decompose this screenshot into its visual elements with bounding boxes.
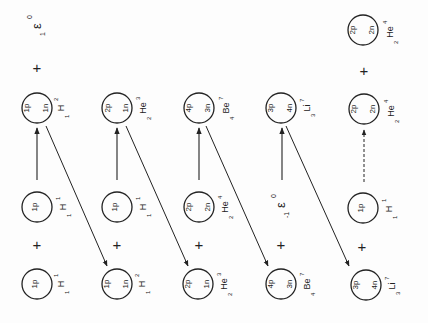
svg-text:2p: 2p — [183, 279, 192, 288]
svg-text:H: H — [384, 206, 394, 213]
svg-text:2p: 2p — [103, 103, 112, 112]
plus-sign: + — [33, 59, 42, 76]
emission-positron-label: ε 0 1 — [26, 15, 46, 36]
svg-text:2: 2 — [53, 97, 59, 101]
nucleus-product-extra: 2p 2n He 4 2 — [348, 15, 399, 45]
svg-text:2p: 2p — [184, 202, 193, 211]
nucleus-product: 2p 2n He 4 2 — [349, 94, 400, 124]
plus-sign: + — [277, 236, 286, 253]
svg-text:2: 2 — [394, 119, 400, 123]
carry-arrow-3-4 — [206, 126, 268, 266]
nucleus-product: 3p 4n Li 7 3 — [266, 93, 316, 123]
svg-text:2: 2 — [146, 116, 152, 120]
svg-text:1p: 1p — [356, 203, 365, 212]
svg-text:1n: 1n — [121, 280, 130, 289]
svg-text:4: 4 — [310, 292, 316, 296]
svg-text:1: 1 — [145, 290, 151, 294]
nucleus-reactant-b: 1p H 1 1 — [348, 193, 398, 223]
carry-arrow-1-2 — [46, 126, 107, 266]
svg-text:Li: Li — [387, 282, 397, 289]
svg-text:4p: 4p — [184, 103, 193, 112]
svg-text:4: 4 — [383, 99, 389, 103]
svg-text:2n: 2n — [203, 203, 212, 212]
carry-arrow-4-5 — [286, 126, 349, 266]
svg-text:H: H — [56, 281, 66, 288]
svg-text:2: 2 — [227, 292, 233, 296]
svg-text:1p: 1p — [22, 103, 31, 112]
svg-text:3: 3 — [395, 291, 401, 295]
column-5: 2p 2n He 4 2 + 2p 2n He 4 2 1p H 1 — [348, 15, 401, 300]
nucleus-reactant-a: 1p 1n H 2 1 — [102, 269, 151, 299]
svg-text:3: 3 — [135, 96, 141, 100]
svg-text:1n: 1n — [121, 104, 130, 113]
svg-text:2: 2 — [393, 40, 399, 44]
svg-text:1: 1 — [53, 273, 59, 277]
svg-text:4: 4 — [229, 116, 235, 120]
svg-text:1: 1 — [55, 196, 61, 200]
svg-text:0: 0 — [270, 194, 277, 198]
nucleus-reactant-b: 2p 2n He 4 2 — [184, 192, 234, 222]
svg-text:2n: 2n — [367, 26, 376, 35]
nucleus-reactant-b: 1p H 1 1 — [22, 192, 72, 222]
svg-text:2: 2 — [228, 215, 234, 219]
svg-text:2n: 2n — [368, 105, 377, 114]
svg-text:1: 1 — [146, 213, 152, 217]
svg-text:H: H — [138, 204, 148, 211]
plus-sign: + — [33, 236, 42, 253]
svg-text:4p: 4p — [266, 279, 275, 288]
svg-text:4n: 4n — [285, 104, 294, 113]
svg-text:3p: 3p — [266, 103, 275, 112]
svg-text:1p: 1p — [30, 202, 39, 211]
column-1: ε 0 1 + 1p 1n H 2 1 1p H 1 1 + — [22, 15, 72, 299]
svg-text:1: 1 — [64, 114, 70, 118]
svg-text:7: 7 — [299, 98, 305, 102]
svg-text:Li: Li — [302, 104, 312, 111]
electron-capture-label: ε 0 -1 — [270, 194, 290, 218]
diagram-canvas: ε 0 1 + 1p 1n H 2 1 1p H 1 1 + — [0, 0, 428, 323]
svg-text:1: 1 — [392, 215, 398, 219]
svg-text:He: He — [138, 102, 148, 114]
svg-text:7: 7 — [218, 96, 224, 100]
svg-text:3: 3 — [216, 272, 222, 276]
svg-text:2p: 2p — [348, 25, 357, 34]
svg-text:-1: -1 — [283, 212, 290, 218]
nucleus-product: 4p 3n Be 7 4 — [184, 93, 235, 123]
svg-text:1: 1 — [64, 290, 70, 294]
svg-text:1n: 1n — [202, 280, 211, 289]
svg-text:3n: 3n — [285, 280, 294, 289]
svg-text:3n: 3n — [203, 104, 212, 113]
svg-text:3p: 3p — [351, 280, 360, 289]
svg-text:1p: 1p — [30, 279, 39, 288]
svg-text:3: 3 — [310, 113, 316, 117]
svg-text:H: H — [56, 105, 66, 112]
svg-text:H: H — [58, 204, 68, 211]
nucleus-reactant-a: 1p H 1 1 — [22, 269, 70, 299]
nucleus-product: 2p 1n He 3 2 — [102, 93, 152, 123]
nucleus-reactant-a: 4p 3n Be 7 4 — [266, 269, 316, 299]
svg-text:1: 1 — [381, 198, 387, 202]
svg-text:0: 0 — [26, 15, 33, 19]
svg-text:He: He — [220, 201, 230, 213]
svg-text:2p: 2p — [349, 104, 358, 113]
svg-text:H: H — [137, 281, 147, 288]
svg-text:1: 1 — [135, 196, 141, 200]
nucleus-reactant-a: 2p 1n He 3 2 — [183, 269, 233, 299]
plus-sign: + — [113, 236, 122, 253]
svg-text:1: 1 — [39, 32, 46, 36]
svg-text:2: 2 — [134, 273, 140, 277]
svg-text:He: He — [386, 105, 396, 117]
svg-text:Be: Be — [302, 278, 312, 289]
nuclear-reaction-diagram: ε 0 1 + 1p 1n H 2 1 1p H 1 1 + — [0, 0, 428, 323]
svg-text:1: 1 — [66, 213, 72, 217]
svg-text:He: He — [219, 278, 229, 290]
svg-text:1p: 1p — [110, 202, 119, 211]
plus-sign: + — [195, 236, 204, 253]
svg-text:1p: 1p — [102, 279, 111, 288]
nucleus-product: 1p 1n H 2 1 — [22, 93, 70, 123]
svg-text:Be: Be — [221, 102, 231, 113]
column-4: 3p 4n Li 7 3 ε 0 -1 + 4p 3n Be 7 4 — [266, 93, 316, 299]
svg-text:7: 7 — [384, 276, 390, 280]
svg-text:1n: 1n — [41, 104, 50, 113]
svg-text:ε: ε — [29, 23, 44, 29]
svg-text:ε: ε — [273, 202, 288, 208]
